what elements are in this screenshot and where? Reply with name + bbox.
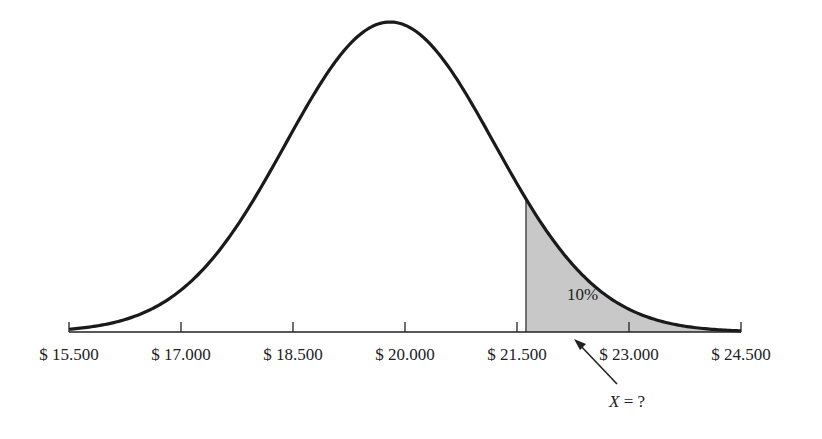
x-tick-label: $ 17.000: [151, 345, 211, 364]
normal-distribution-chart: $ 15.500$ 17.000$ 18.500$ 20.000$ 21.500…: [0, 0, 822, 439]
x-tick-label: $ 20.000: [375, 345, 435, 364]
area-percent-label: 10%: [567, 285, 598, 304]
x-axis-tick-labels: $ 15.500$ 17.000$ 18.500$ 20.000$ 21.500…: [39, 345, 771, 364]
x-tick-label: $ 24.500: [711, 345, 771, 364]
x-tick-label: $ 18.500: [263, 345, 323, 364]
x-tick-label: $ 23.000: [599, 345, 659, 364]
arrow-head-icon: [574, 339, 586, 350]
x-tick-label: $ 21.500: [487, 345, 547, 364]
x-tick-label: $ 15.500: [39, 345, 99, 364]
x-unknown-label: X = ?: [608, 392, 645, 411]
normal-curve: [69, 22, 741, 331]
